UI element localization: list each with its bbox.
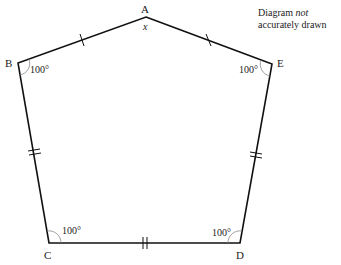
note-line1-prefix: Diagram [258, 7, 296, 18]
vertex-label-d: D [236, 249, 244, 261]
angle-label-e: 100° [239, 64, 258, 75]
angle-label-b: 100° [30, 64, 49, 75]
diagram-not-to-scale-note: Diagram not accurately drawn [258, 7, 341, 31]
angle-label-a: x [142, 21, 148, 32]
vertex-label-a: A [141, 3, 149, 15]
pentagon-diagram: A B C D E x 100° 100° 100° 100° [0, 0, 341, 265]
angle-label-d: 100° [212, 227, 231, 238]
note-line2: accurately drawn [258, 19, 327, 30]
angle-label-c: 100° [62, 225, 81, 236]
vertex-label-c: C [44, 249, 51, 261]
vertex-label-e: E [277, 57, 284, 69]
double-tick-bc [28, 149, 41, 155]
note-line1-emphasis: not [296, 7, 309, 18]
pentagon-outline [18, 17, 272, 243]
vertex-label-b: B [5, 57, 12, 69]
